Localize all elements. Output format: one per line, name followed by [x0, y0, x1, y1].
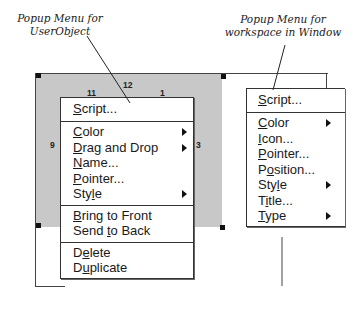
- caption-leader-lines: [0, 0, 355, 310]
